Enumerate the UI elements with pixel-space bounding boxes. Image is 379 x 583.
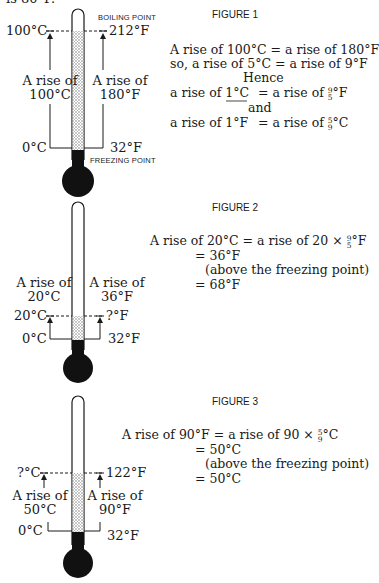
fig2-eq1: A rise of 20°C = a rise of 20 × 95°F <box>150 233 366 249</box>
fig3-f-bottom: 32°F <box>107 529 139 543</box>
boiling-point-label: BOILING POINT <box>98 13 156 22</box>
fig3-f-top: 122°F <box>106 466 146 480</box>
thermometer-figure1 <box>46 9 107 197</box>
fig1-c-top: 100°C <box>6 24 47 38</box>
fig3-rise-f-line1: A rise of <box>82 489 148 503</box>
fig1-rise-f: A rise of 180°F <box>84 74 156 102</box>
fig3-rise-c: A rise of 50°C <box>10 489 70 517</box>
fig3-eq1-unit: °C <box>323 427 339 442</box>
fig3-eq4: = 50°C <box>195 471 241 486</box>
fig3-eq1-text: A rise of 90°F = a rise of 90 × <box>122 427 314 442</box>
fig2-eq2: = 36°F <box>195 248 240 263</box>
fig2-rise-f: A rise of 36°F <box>84 276 150 304</box>
fig3-c-bottom: 0°C <box>18 524 43 538</box>
fig1-eq6-left: a rise of 1°F <box>170 115 248 130</box>
fig2-rise-f-line1: A rise of <box>84 276 150 290</box>
fig1-rise-c: A rise of 100°C <box>14 74 86 102</box>
fig1-rise-f-line2: 180°F <box>84 88 156 102</box>
fig3-c-top: ?°C <box>17 466 40 480</box>
fig2-eq4: = 68°F <box>195 277 240 292</box>
fig1-c-bottom: 0°C <box>22 141 47 155</box>
fig3-rise-f: A rise of 90°F <box>82 489 148 517</box>
fig1-eq6-text: = a rise of <box>258 115 324 130</box>
fig2-f-bottom: 32°F <box>108 332 140 346</box>
fig2-eq1-unit: °F <box>351 233 366 248</box>
fig2-f-top: ?°F <box>106 309 129 323</box>
fig3-eq2: = 50°C <box>195 442 241 457</box>
fig1-f-bottom: 32°F <box>110 141 142 155</box>
fig2-eq3: (above the freezing point) <box>205 262 369 277</box>
fig3-rise-c-line1: A rise of <box>10 489 70 503</box>
thermometer-figure3 <box>40 396 104 578</box>
fig2-c-top: 20°C <box>14 309 47 323</box>
fig1-rise-c-line1: A rise of <box>14 74 86 88</box>
top-cut-text: is 80°F. <box>6 0 55 6</box>
fig3-rise-c-line2: 50°C <box>10 503 70 517</box>
fig1-eq4-left: a rise of 1°C <box>170 85 249 100</box>
fig1-f-top: 212°F <box>109 24 149 38</box>
fig2-rise-f-line2: 36°F <box>84 290 150 304</box>
fig3-eq3: (above the freezing point) <box>205 456 369 471</box>
figure2-title: FIGURE 2 <box>212 202 258 213</box>
fig1-rise-f-line1: A rise of <box>84 74 156 88</box>
fig1-eq6-unit: °C <box>333 115 349 130</box>
fig2-rise-c: A rise of 20°C <box>14 276 74 304</box>
fig1-eq4-right: = a rise of 95°F <box>258 85 348 101</box>
fig1-rise-c-line2: 100°C <box>14 88 86 102</box>
fig1-eq5: and <box>248 100 272 115</box>
fig2-rise-c-line1: A rise of <box>14 276 74 290</box>
fig1-eq4-unit: °F <box>333 85 348 100</box>
fig3-eq1: A rise of 90°F = a rise of 90 × 59°C <box>122 427 338 443</box>
fig1-eq2: so, a rise of 5°C = a rise of 9°F <box>170 56 368 71</box>
fig1-eq6-right: = a rise of 59°C <box>258 115 348 131</box>
figure1-title: FIGURE 1 <box>212 9 258 20</box>
fig2-eq1-text: A rise of 20°C = a rise of 20 × <box>150 233 343 248</box>
fig3-rise-f-line2: 90°F <box>82 503 148 517</box>
fig2-c-bottom: 0°C <box>22 332 47 346</box>
freezing-point-label: FREEZING POINT <box>90 156 156 165</box>
fig2-rise-c-line2: 20°C <box>14 290 74 304</box>
figure3-title: FIGURE 3 <box>212 396 258 407</box>
fig1-eq1: A rise of 100°C = a rise of 180°F <box>170 42 379 57</box>
fig1-eq4-text: = a rise of <box>258 85 324 100</box>
fig1-eq3: Hence <box>243 70 284 85</box>
